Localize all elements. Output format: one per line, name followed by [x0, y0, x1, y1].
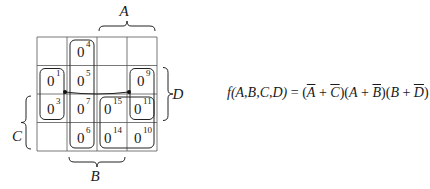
brace-A — [99, 21, 155, 31]
cell-index: 11 — [143, 96, 152, 106]
complemented-var: B — [372, 85, 381, 100]
variable: B — [390, 85, 399, 100]
brace-D — [163, 68, 173, 121]
cell-value: 0 — [134, 101, 142, 117]
cell-value: 0 — [47, 73, 55, 89]
cell-index: 3 — [56, 96, 61, 106]
cell-index: 6 — [86, 125, 91, 135]
cell-index: 7 — [86, 96, 91, 106]
brace-C — [21, 96, 31, 149]
cell-index: 5 — [86, 68, 91, 78]
karnaugh-map: 04010509030701501106014010 A B C D — [0, 0, 215, 189]
cell-value: 0 — [47, 101, 55, 117]
variable: A — [349, 85, 358, 100]
cell-value: 0 — [104, 101, 112, 117]
cell-index: 10 — [143, 125, 153, 135]
label-A: A — [118, 3, 129, 19]
paren-close: ) — [424, 85, 429, 100]
complemented-var: C — [330, 85, 339, 100]
cell-value: 0 — [134, 130, 142, 146]
cell-index: 14 — [113, 125, 123, 135]
or-operator: + — [358, 85, 373, 100]
label-C: C — [12, 128, 23, 144]
cell-value: 0 — [77, 73, 85, 89]
cell-index: 1 — [56, 68, 61, 78]
or-operator: + — [399, 85, 414, 100]
cell-index: 9 — [146, 68, 151, 78]
cell-value: 0 — [77, 101, 85, 117]
brace-B — [69, 157, 125, 167]
connector-dot-left — [63, 90, 67, 94]
formula-lhs: f(A,B,C,D) — [227, 85, 287, 100]
cell-value: 0 — [137, 73, 145, 89]
cell-value: 0 — [77, 44, 85, 60]
cell-value: 0 — [104, 130, 112, 146]
label-D: D — [172, 86, 184, 102]
connector-dot-right — [127, 90, 131, 94]
label-B: B — [90, 168, 99, 184]
cell-index: 4 — [86, 39, 91, 49]
formula-equals: = — [287, 85, 302, 100]
cell-value: 0 — [77, 130, 85, 146]
boolean-expression: f(A,B,C,D) = (A + C)(A + B)(B + D) — [227, 85, 429, 101]
or-operator: + — [315, 85, 330, 100]
cell-index: 15 — [113, 96, 123, 106]
complemented-var: D — [414, 85, 424, 100]
formula-terms: (A + C)(A + B)(B + D) — [302, 85, 428, 100]
